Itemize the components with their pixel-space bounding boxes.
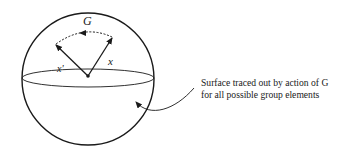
caption-line-2: for all possible group elements: [201, 89, 328, 101]
sphere-outline: [22, 13, 154, 145]
pointer-curve: [136, 88, 194, 110]
equator-ellipse: [22, 69, 154, 87]
group-label: G: [83, 14, 92, 28]
rotation-arrowhead: [79, 30, 86, 36]
sphere-diagram: G x x': [0, 0, 356, 147]
caption-line-1: Surface traced out by action of G: [201, 77, 328, 89]
vector-x-label: x: [107, 55, 113, 67]
surface-caption: Surface traced out by action of G for al…: [201, 77, 328, 100]
vector-x-prime-label: x': [56, 63, 64, 74]
